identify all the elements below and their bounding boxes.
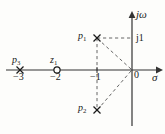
tick-label-origin: 0 bbox=[134, 70, 139, 80]
tick-label-minus-1: −1 bbox=[90, 72, 101, 82]
pole-label-p1-subscript: 1 bbox=[83, 35, 86, 42]
pole-label-p2: p2 bbox=[78, 103, 86, 114]
pole-label-p3-subscript: 3 bbox=[17, 59, 20, 66]
pole-label-p2-subscript: 2 bbox=[83, 107, 86, 114]
pole-zero-plot-figure: jω σ j1 0 −1 −2 −3 p3 z1 p1 p2 bbox=[0, 0, 165, 134]
guide-line-origin-to-p2 bbox=[99, 71, 131, 108]
tick-label-minus-2: −2 bbox=[50, 72, 61, 82]
guide-line-origin-to-p1 bbox=[99, 40, 131, 69]
pole-marker-p2 bbox=[94, 107, 101, 114]
pole-label-p3: p3 bbox=[12, 55, 20, 66]
zero-label-z1-subscript: 1 bbox=[54, 59, 57, 66]
zero-label-z1: z1 bbox=[50, 55, 57, 66]
imaginary-axis-arrowhead bbox=[129, 11, 136, 18]
pole-label-p1: p1 bbox=[78, 31, 86, 42]
imaginary-axis-label: jω bbox=[136, 9, 147, 20]
tick-label-minus-3: −3 bbox=[13, 72, 24, 82]
real-axis-label: σ bbox=[152, 72, 157, 83]
tick-label-j1: j1 bbox=[136, 33, 144, 43]
